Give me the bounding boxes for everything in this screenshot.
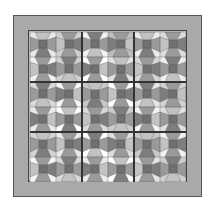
block-pattern-icon <box>30 82 56 107</box>
block-pattern-icon <box>56 32 82 57</box>
sashing-horizontal <box>30 81 186 83</box>
quilt-block <box>108 107 134 132</box>
sashing-vertical <box>133 32 135 182</box>
block-pattern-icon <box>56 132 82 157</box>
quilt-block <box>134 82 160 107</box>
block-pattern-icon <box>160 82 186 107</box>
quilt-block <box>82 82 108 107</box>
quilt-block <box>160 132 186 157</box>
block-pattern-icon <box>56 82 82 107</box>
quilt-block <box>30 107 56 132</box>
quilt-block <box>160 57 186 82</box>
block-pattern-icon <box>160 57 186 82</box>
quilt-inner-border <box>28 30 187 182</box>
block-pattern-icon <box>160 32 186 57</box>
quilt-block <box>82 32 108 57</box>
block-pattern-icon <box>108 82 134 107</box>
sashing-horizontal <box>30 131 186 133</box>
block-pattern-icon <box>56 107 82 132</box>
block-pattern-icon <box>82 132 108 157</box>
block-pattern-icon <box>108 132 134 157</box>
quilt-block <box>30 57 56 82</box>
quilt-block <box>160 107 186 132</box>
quilt-block <box>134 57 160 82</box>
block-pattern-icon <box>134 82 160 107</box>
quilt-block <box>56 157 82 182</box>
block-pattern-icon <box>56 57 82 82</box>
quilt-block <box>160 157 186 182</box>
quilt-block <box>108 57 134 82</box>
quilt-block <box>56 107 82 132</box>
block-pattern-icon <box>82 32 108 57</box>
quilt-block <box>56 32 82 57</box>
quilt-block <box>160 82 186 107</box>
quilt-block <box>108 82 134 107</box>
quilt-block <box>108 32 134 57</box>
block-pattern-icon <box>82 57 108 82</box>
block-pattern-icon <box>108 107 134 132</box>
quilt-block <box>82 57 108 82</box>
quilt-block <box>30 32 56 57</box>
block-pattern-icon <box>82 107 108 132</box>
quilt-block <box>82 157 108 182</box>
quilt-block <box>56 132 82 157</box>
block-pattern-icon <box>30 157 56 182</box>
block-pattern-icon <box>134 132 160 157</box>
block-pattern-icon <box>134 157 160 182</box>
block-pattern-icon <box>134 57 160 82</box>
sashing-vertical <box>81 32 83 182</box>
quilt-block <box>108 132 134 157</box>
quilt-block <box>160 32 186 57</box>
block-pattern-icon <box>82 82 108 107</box>
quilt-block <box>30 82 56 107</box>
quilt-block <box>82 107 108 132</box>
block-pattern-icon <box>30 57 56 82</box>
block-pattern-icon <box>56 157 82 182</box>
block-pattern-icon <box>160 157 186 182</box>
quilt-block-grid <box>30 32 186 182</box>
quilt-block <box>30 132 56 157</box>
quilt-block <box>56 57 82 82</box>
quilt-block <box>108 157 134 182</box>
block-pattern-icon <box>108 57 134 82</box>
block-pattern-icon <box>160 107 186 132</box>
quilt <box>13 15 202 197</box>
block-pattern-icon <box>134 107 160 132</box>
quilt-block <box>134 132 160 157</box>
block-pattern-icon <box>160 132 186 157</box>
quilt-block <box>30 157 56 182</box>
quilt-block <box>134 107 160 132</box>
quilt-block <box>134 32 160 57</box>
block-pattern-icon <box>108 157 134 182</box>
quilt-block <box>56 82 82 107</box>
block-pattern-icon <box>30 32 56 57</box>
block-pattern-icon <box>108 32 134 57</box>
quilt-block <box>82 132 108 157</box>
block-pattern-icon <box>30 107 56 132</box>
block-pattern-icon <box>134 32 160 57</box>
block-pattern-icon <box>82 157 108 182</box>
quilt-block <box>134 157 160 182</box>
block-pattern-icon <box>30 132 56 157</box>
